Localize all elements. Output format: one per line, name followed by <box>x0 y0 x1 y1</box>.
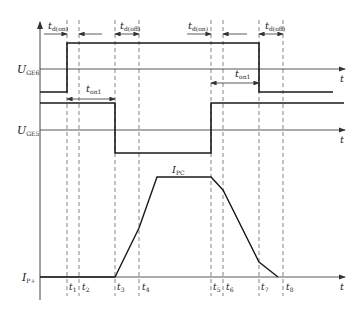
t5-label: t5 <box>213 282 221 293</box>
uge5-waveform <box>40 103 344 153</box>
t2-label: t2 <box>82 282 90 293</box>
t6-label: t6 <box>226 282 234 293</box>
ton1-left-label: ton1 <box>86 83 101 95</box>
dashed-time-markers <box>67 20 283 296</box>
current-axis-label: IP+ <box>21 271 35 284</box>
t1-label: t1 <box>69 282 76 293</box>
t3-label: t3 <box>117 282 125 293</box>
ge5-t-label: t <box>340 134 345 145</box>
ge6-t-label: t <box>340 73 345 84</box>
t4-label: t4 <box>142 282 150 293</box>
timing-diagram: td(on) td(off) td(on) td(off) ton1 ton1 … <box>0 0 360 315</box>
td-off-right-label: td(off) <box>265 20 285 32</box>
current-t-label: t <box>340 281 345 292</box>
uge5-label: UGE5 <box>17 124 39 137</box>
td-on-left-label: td(on) <box>48 20 68 32</box>
current-waveform <box>40 177 278 277</box>
t7-label: t7 <box>261 282 269 293</box>
td-on-right-label: td(on) <box>188 20 208 32</box>
ton1-right-label: ton1 <box>235 68 250 80</box>
uge6-waveform <box>40 43 333 92</box>
t8-label: t8 <box>286 282 294 293</box>
time-mark-labels: t1 t2 t3 t4 t5 t6 t7 t8 <box>69 282 294 293</box>
ipc-peak-label: IPC <box>171 164 185 176</box>
uge6-label: UGE6 <box>17 63 39 76</box>
td-off-left-label: td(off) <box>120 20 140 32</box>
